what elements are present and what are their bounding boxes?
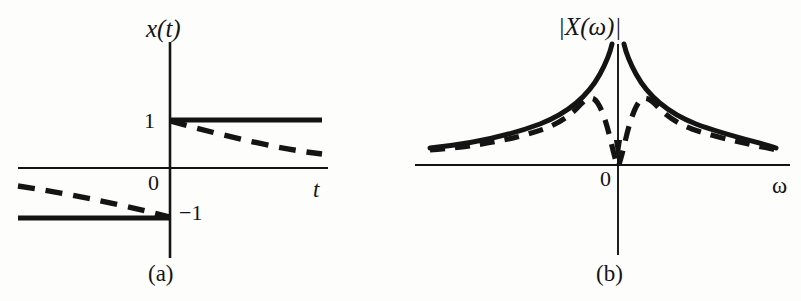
panel-a-ytick-label-minus-one: −1	[179, 202, 202, 224]
panel-b-plot	[400, 0, 801, 301]
panel-b-caption: (b)	[596, 262, 623, 285]
panel-a-origin-label: 0	[148, 172, 159, 194]
figure-container: x(t) 1 0 −1 t (a) |X(ω)| 0 ω (b)	[0, 0, 801, 301]
panel-a-x-axis-label: t	[313, 178, 319, 201]
panel-b-origin-label: 0	[600, 168, 611, 190]
panel-a-plot	[0, 0, 400, 301]
panel-a-time-domain: x(t) 1 0 −1 t (a)	[0, 0, 400, 301]
panel-b-frequency-domain: |X(ω)| 0 ω (b)	[400, 0, 801, 301]
panel-a-ytick-label-one: 1	[144, 110, 155, 132]
panel-a-y-axis-label: x(t)	[146, 16, 181, 41]
panel-b-y-axis-label: |X(ω)|	[558, 14, 621, 39]
series-exponential-spectrum-right	[619, 98, 776, 165]
series-exponential-positive-branch	[170, 121, 322, 154]
panel-a-caption: (a)	[148, 262, 174, 285]
panel-b-x-axis-label: ω	[772, 174, 787, 197]
series-signum-spectrum-left	[430, 44, 612, 148]
